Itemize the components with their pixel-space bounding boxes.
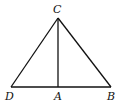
segment-cd — [11, 18, 58, 87]
label-d: D — [4, 90, 14, 103]
label-a: A — [53, 90, 62, 103]
label-b: B — [106, 90, 115, 103]
segment-cb — [58, 18, 111, 87]
triangle-diagram: C D A B — [0, 0, 122, 107]
label-c: C — [53, 3, 62, 16]
